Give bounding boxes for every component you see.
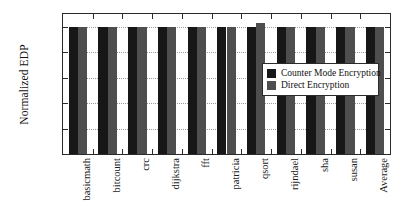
chart-figure: Normalized EDP 00.20.40.60.81 Counter Mo… xyxy=(0,0,414,219)
x-axis-tick xyxy=(212,14,213,19)
x-axis-tick xyxy=(122,14,123,19)
x-axis-tick xyxy=(331,14,332,19)
bar xyxy=(108,27,117,154)
bar xyxy=(217,27,226,154)
x-axis-tick xyxy=(182,149,183,154)
y-axis-tick xyxy=(385,154,390,155)
x-axis-tick xyxy=(152,149,153,154)
bar xyxy=(247,27,256,154)
bar xyxy=(158,27,167,154)
x-axis-tick xyxy=(212,149,213,154)
y-axis-tick xyxy=(63,78,68,79)
x-axis-tick xyxy=(122,149,123,154)
x-axis-tick-label: crc xyxy=(140,158,152,219)
x-axis-tick xyxy=(93,14,94,19)
legend-item-direct-encryption: Direct Encryption xyxy=(267,80,374,91)
x-axis-tick-label: fft xyxy=(200,158,212,219)
y-axis-tick xyxy=(63,154,68,155)
x-axis-tick xyxy=(360,149,361,154)
y-axis-tick xyxy=(63,27,68,28)
x-axis-tick xyxy=(390,14,391,19)
x-axis-tick-label: sha xyxy=(319,158,331,219)
x-axis-tick xyxy=(360,14,361,19)
legend-item-counter-mode-encryption: Counter Mode Encryption xyxy=(267,68,374,79)
x-axis-tick xyxy=(301,14,302,19)
bar xyxy=(167,27,176,154)
y-axis-tick xyxy=(385,27,390,28)
x-axis-tick xyxy=(271,149,272,154)
x-axis-tick xyxy=(241,14,242,19)
y-axis-tick xyxy=(385,129,390,130)
x-axis-tick xyxy=(271,14,272,19)
bar xyxy=(78,27,87,154)
y-axis-tick xyxy=(385,52,390,53)
legend-swatch-icon-counter-mode xyxy=(267,69,276,78)
x-axis-tick-label: Average xyxy=(378,158,390,219)
x-axis-tick xyxy=(182,14,183,19)
x-axis-tick-label: patricia xyxy=(230,158,242,219)
x-axis-tick xyxy=(301,149,302,154)
legend-label: Counter Mode Encryption xyxy=(281,68,381,79)
y-axis-tick xyxy=(63,129,68,130)
y-axis-tick xyxy=(63,52,68,53)
bar xyxy=(197,27,206,154)
chart-legend: Counter Mode Encryption Direct Encryptio… xyxy=(262,63,379,96)
bar xyxy=(137,27,146,154)
y-axis-tick xyxy=(385,78,390,79)
x-axis-tick-label: dijkstra xyxy=(170,158,182,219)
x-axis-tick-label: rijndael xyxy=(289,158,301,219)
legend-swatch-icon-direct xyxy=(267,81,276,90)
x-axis-tick xyxy=(241,149,242,154)
x-axis-tick xyxy=(152,14,153,19)
bar xyxy=(98,27,107,154)
x-axis-tick-label: basicmath xyxy=(81,158,93,219)
y-axis-tick xyxy=(385,103,390,104)
x-axis-tick-label: bitcount xyxy=(111,158,123,219)
x-axis-tick xyxy=(331,149,332,154)
legend-label: Direct Encryption xyxy=(281,80,349,91)
x-axis-tick xyxy=(93,149,94,154)
bar xyxy=(227,27,236,154)
x-axis-tick xyxy=(390,149,391,154)
bar xyxy=(188,27,197,154)
x-axis-tick-label: susan xyxy=(348,158,360,219)
bar xyxy=(128,27,137,154)
bar xyxy=(69,27,78,154)
y-axis-tick xyxy=(63,103,68,104)
x-axis-tick-label: qsort xyxy=(259,158,271,219)
y-axis-title: Normalized EDP xyxy=(12,7,36,162)
